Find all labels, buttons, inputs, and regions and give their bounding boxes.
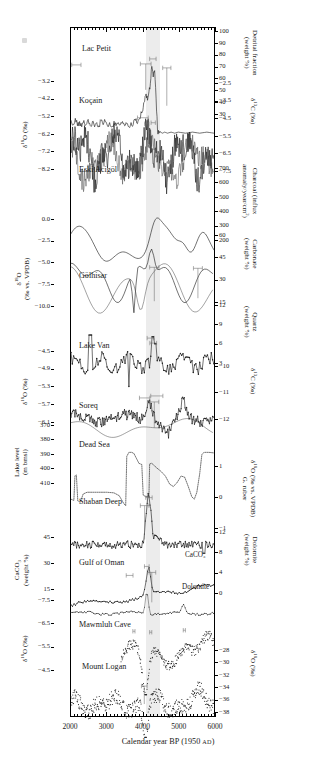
tick-kocainr-0: −2.5 [219, 80, 231, 87]
yaxis-ticks-kocain: −3.2−4.2−5.2−6.2−7.2−8.2 [28, 81, 50, 169]
xaxis-tick-2000: 2000 [62, 722, 77, 731]
yaxis-title-golhisar: δ18O(‰ vs. VPDB) [14, 258, 32, 300]
yaxis-ticks-soreq-right: −10−11−12 [219, 366, 241, 419]
yaxis-title-dead-sea: Lake level(m bmsl) [14, 447, 30, 477]
tick-mawmluh-0: −7.5 [38, 597, 50, 604]
tick-soreq-2: −5.3 [38, 383, 50, 390]
series-label-caco3: CaCO₃ [185, 551, 205, 559]
tick-kocain-4: −7.2 [38, 148, 50, 155]
tick-kocainr-3: −5.5 [219, 133, 231, 140]
tick-oman-2: 15 [43, 586, 50, 593]
xaxis-tick-3000: 3000 [99, 722, 114, 731]
tick-kocainr-4: −6.5 [219, 150, 231, 157]
yaxis-title-dolomite: Dolomite(weight %) [242, 534, 258, 566]
tick-logan-1: −30 [219, 659, 229, 666]
tick-golhisar-2: −5.0 [38, 259, 50, 266]
tick-lacpetit-3: 70 [219, 63, 226, 70]
yaxis-ticks-dead-sea: 370380390400410 [28, 425, 50, 483]
tick-quartz-2: 6 [219, 340, 222, 347]
tick-kocainr-1: −3.5 [219, 97, 231, 104]
yaxis-ticks-carbonate: 60453015 [219, 235, 241, 302]
top-tick-row [0, 27, 336, 32]
yaxis-ticks-gulf-of-oman: 453015 [30, 537, 50, 589]
data-traces [71, 28, 214, 716]
panel-label-soreq: Soreq [79, 401, 98, 410]
yaxis-title-soreq-right: δ13C (‰) [248, 368, 258, 394]
tick-lacpetit-1: 90 [219, 40, 226, 47]
tick-soreqr-0: −10 [219, 363, 229, 370]
tick-mawmluh-3: −4.5 [38, 667, 50, 674]
tick-deadsea-4: 410 [40, 480, 50, 487]
xaxis-title-end: ) [212, 737, 215, 746]
yaxis-title-soreq: δ18O (‰) [20, 378, 30, 405]
yaxis-ticks-charcoal: 700600500400300200 [219, 168, 241, 240]
yaxis-ticks-mount-logan: −28−30−32−34−36−38 [219, 650, 241, 712]
tick-carbonate-1: 45 [219, 254, 226, 261]
tick-kocain-1: −4.2 [38, 95, 50, 102]
tick-quartz-1: 9 [219, 321, 222, 328]
xaxis-tick-4000: 4000 [135, 722, 150, 731]
tick-carbonate-0: 60 [219, 232, 226, 239]
tick-kocain-0: −3.2 [38, 78, 50, 85]
yaxis-title-mount-logan: δ18O (‰) [248, 650, 258, 677]
yaxis-ticks-dolomite: 12840 [219, 532, 241, 593]
tick-kocain-5: −8.2 [38, 166, 50, 173]
tick-golhisar-0: 0.0 [42, 216, 50, 223]
xaxis-title: Calendar year BP (1950 AD) [0, 737, 336, 746]
yaxis-title-shaban-deep: δ18O (‰ vs. VPDB)G. ruber [240, 460, 258, 517]
panel-label-dead-sea: Dead Sea [79, 440, 110, 449]
yaxis-ticks-kocain-right: −2.5−3.5−4.5−5.5−6.5−7.5 [219, 83, 241, 171]
tick-carbonate-2: 30 [219, 276, 226, 283]
tick-charcoal-0: 700 [219, 165, 229, 172]
yaxis-title-kocain: δ18O (‰) [20, 121, 30, 148]
tick-oman-0: 45 [43, 534, 50, 541]
xaxis-title-era: AD [202, 738, 211, 745]
tick-logan-5: −38 [219, 709, 229, 716]
tick-golhisar-3: −7.5 [38, 281, 50, 288]
tick-mawmluh-1: −6.5 [38, 620, 50, 627]
tick-soreqr-2: −12 [219, 416, 229, 423]
tick-lacpetit-0: 100 [219, 28, 229, 35]
tick-soreq-1: −4.9 [38, 365, 50, 372]
yaxis-title-lac-petit: Detrital fraction(weight %) [242, 30, 258, 76]
tick-golhisar-1: −2.5 [38, 237, 50, 244]
tick-deadsea-0: 370 [40, 422, 50, 429]
tick-logan-0: −28 [219, 647, 229, 654]
tick-quartz-0: 12 [219, 302, 226, 309]
tick-kocain-2: −5.2 [38, 113, 50, 120]
corner-marker [22, 38, 27, 43]
tick-charcoal-3: 400 [219, 208, 229, 215]
panel-label-golhisar: Gölhisar [79, 271, 107, 280]
tick-shaban-0: 1 [219, 463, 222, 470]
tick-dolomite-1: 8 [219, 549, 222, 556]
yaxis-ticks-shaban-deep: 10−1 [219, 466, 241, 528]
tick-deadsea-3: 400 [40, 465, 50, 472]
tick-logan-3: −34 [219, 684, 229, 691]
panel-label-mawmluh-cave: Mawmluh Cave [79, 620, 131, 629]
tick-soreqr-1: −11 [219, 389, 229, 396]
tick-golhisar-4: −10.0 [35, 303, 50, 310]
yaxis-title-quartz: Quartz(weight %) [242, 306, 258, 338]
yaxis-title-carbonate: Carbonate(weight %) [242, 238, 258, 270]
tick-mawmluh-2: −5.5 [38, 643, 50, 650]
panel-label-gulf-of-oman: Gulf of Oman [79, 558, 124, 567]
yaxis-title-charcoal: Charcoal (influxanomaly/year/cm2) [240, 164, 258, 218]
series-label-dolomite: Dolomite [182, 583, 209, 591]
tick-soreq-3: −5.7 [38, 401, 50, 408]
tick-dolomite-3: 0 [219, 590, 222, 597]
panel-label-lake-van: Lake Van [79, 341, 110, 350]
figure-root: Lac Petit Koçain Eski Acigöl Gölhisar La… [0, 0, 336, 764]
tick-charcoal-4: 300 [219, 222, 229, 229]
tick-logan-4: −36 [219, 696, 229, 703]
xaxis-tick-labels: 20003000400050006000 [70, 722, 215, 732]
tick-logan-2: −32 [219, 672, 229, 679]
tick-kocain-3: −6.2 [38, 131, 50, 138]
tick-charcoal-2: 500 [219, 194, 229, 201]
tick-charcoal-1: 600 [219, 179, 229, 186]
bottom-tick-row [0, 712, 336, 717]
yaxis-ticks-soreq: −4.5−4.9−5.3−5.7−6.1 [28, 351, 50, 422]
xaxis-tick-5000: 5000 [171, 722, 186, 731]
yaxis-ticks-quartz: 12963 [219, 305, 241, 363]
tick-kocainr-2: −4.5 [219, 115, 231, 122]
yaxis-title-mawmluh: δ18O (‰) [20, 635, 30, 662]
